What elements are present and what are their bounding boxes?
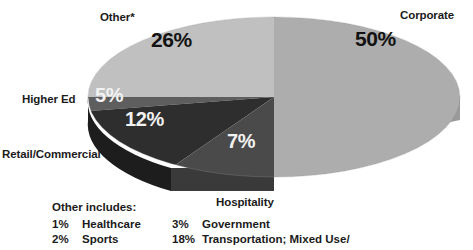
footnote-item-text: Government bbox=[202, 217, 270, 233]
footnote-columns: 1% Healthcare 2% Sports 3% Government 18… bbox=[52, 217, 472, 248]
footnote-title: Other includes: bbox=[52, 200, 472, 216]
footnote-item-pct: 18% bbox=[172, 232, 202, 248]
value-hospitality: 7% bbox=[227, 130, 255, 153]
label-retail-commercial: Retail/Commercial bbox=[2, 148, 101, 160]
footnote: Other includes: 1% Healthcare 2% Sports … bbox=[52, 200, 472, 248]
label-other: Other* bbox=[100, 11, 135, 23]
footnote-item: 1% Healthcare bbox=[52, 217, 172, 233]
value-higher-ed: 5% bbox=[95, 84, 123, 107]
label-higher-ed: Higher Ed bbox=[22, 93, 75, 105]
footnote-item-pct: 2% bbox=[52, 232, 82, 248]
footnote-item-text: Transportation; Mixed Use/ bbox=[202, 232, 350, 248]
footnote-item-text: Sports bbox=[82, 232, 118, 248]
label-corporate: Corporate bbox=[400, 9, 454, 21]
footnote-item-pct: 1% bbox=[52, 217, 82, 233]
footnote-item-text: Healthcare bbox=[82, 217, 141, 233]
value-retail-commercial: 12% bbox=[125, 108, 164, 131]
value-other: 26% bbox=[151, 28, 192, 52]
footnote-column-left: 1% Healthcare 2% Sports bbox=[52, 217, 172, 248]
footnote-item: 18% Transportation; Mixed Use/ bbox=[172, 232, 432, 248]
footnote-item: 2% Sports bbox=[52, 232, 172, 248]
footnote-item-pct: 3% bbox=[172, 217, 202, 233]
value-corporate: 50% bbox=[355, 27, 396, 51]
pie-top-faces bbox=[88, 17, 460, 177]
pie-chart: Other* Corporate Higher Ed Retail/Commer… bbox=[0, 0, 473, 250]
footnote-column-right: 3% Government 18% Transportation; Mixed … bbox=[172, 217, 432, 248]
footnote-item: 3% Government bbox=[172, 217, 432, 233]
